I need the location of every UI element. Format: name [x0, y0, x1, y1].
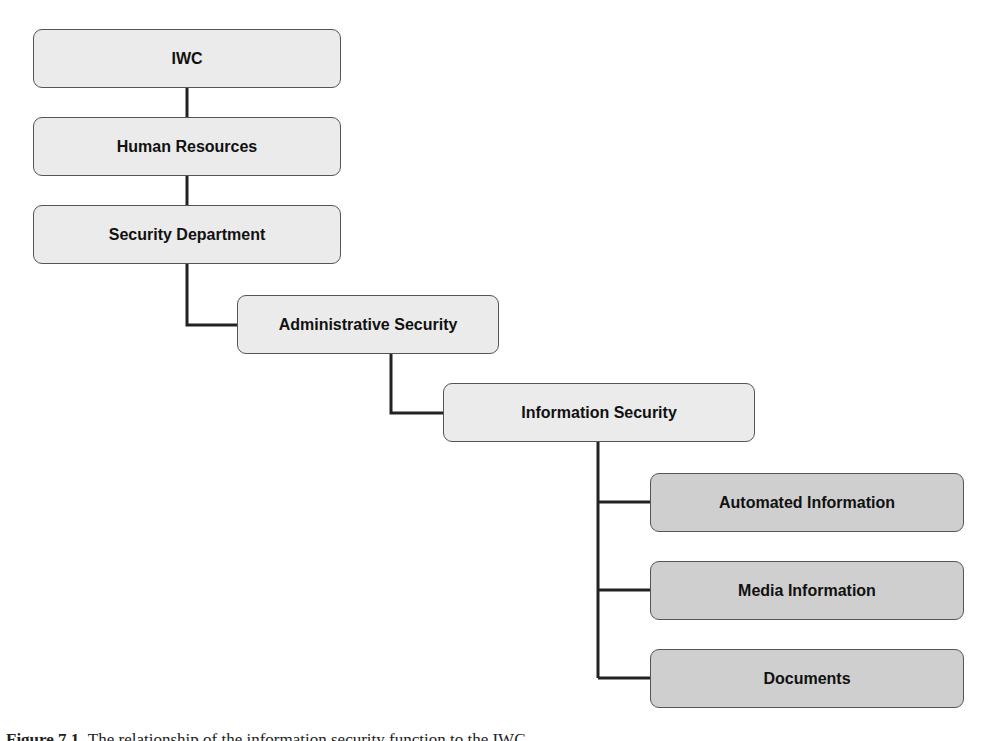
node-label: Security Department [109, 226, 266, 244]
node-information-security: Information Security [443, 383, 755, 442]
node-security-department: Security Department [33, 205, 341, 264]
node-label: IWC [171, 50, 202, 68]
connector-lines [0, 0, 998, 741]
caption-prefix: Figure 7.1 [6, 730, 79, 741]
figure-caption: Figure 7.1 The relationship of the infor… [0, 729, 998, 741]
node-administrative-security: Administrative Security [237, 295, 499, 354]
node-media-information: Media Information [650, 561, 964, 620]
node-label: Human Resources [117, 138, 258, 156]
node-iwc: IWC [33, 29, 341, 88]
node-label: Automated Information [719, 494, 895, 512]
node-documents: Documents [650, 649, 964, 708]
node-label: Media Information [738, 582, 876, 600]
node-label: Documents [763, 670, 850, 688]
caption-text: The relationship of the information secu… [88, 730, 530, 741]
node-automated-information: Automated Information [650, 473, 964, 532]
node-label: Information Security [521, 404, 677, 422]
node-human-resources: Human Resources [33, 117, 341, 176]
node-label: Administrative Security [279, 316, 458, 334]
